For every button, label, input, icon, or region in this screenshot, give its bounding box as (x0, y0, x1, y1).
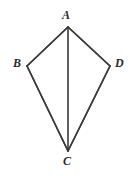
vertex-label-d: D (115, 57, 124, 69)
kite-diagram-canvas (0, 0, 132, 176)
vertex-label-a: A (62, 9, 70, 21)
geometry-figure-kite-abcd: A B D C (0, 0, 132, 176)
vertex-label-b: B (13, 57, 21, 69)
vertex-label-c: C (63, 155, 71, 167)
